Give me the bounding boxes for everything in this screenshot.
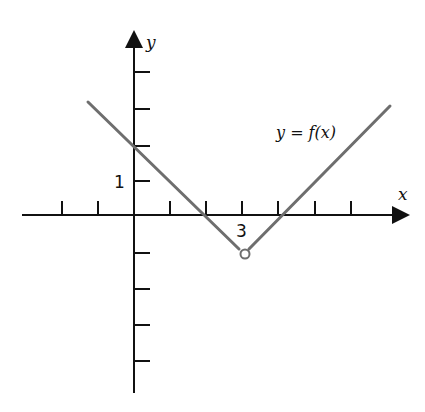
function-label: y = f(x) bbox=[275, 123, 336, 142]
x-tick-label-3: 3 bbox=[236, 221, 247, 241]
open-point-marker bbox=[241, 250, 250, 259]
y-tick-label-1: 1 bbox=[114, 172, 125, 192]
y-ticks bbox=[134, 72, 150, 361]
function-graph: y x y = f(x) 1 3 bbox=[0, 0, 425, 412]
x-axis-arrow-icon bbox=[392, 206, 410, 224]
y-axis-arrow-icon bbox=[125, 30, 143, 48]
x-axis-label: x bbox=[398, 184, 408, 204]
x-ticks bbox=[62, 201, 351, 215]
y-axis-label: y bbox=[145, 32, 156, 52]
